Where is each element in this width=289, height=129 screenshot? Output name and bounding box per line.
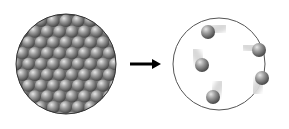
solid-particle — [47, 58, 59, 70]
solid-particle — [122, 36, 134, 48]
solid-particle — [128, 69, 140, 81]
solid-particle — [134, 79, 146, 91]
solid-particle — [84, 36, 96, 48]
solid-particle — [60, 15, 72, 27]
solid-particle — [4, 47, 16, 59]
solid-particle — [78, 47, 90, 59]
solid-particle — [122, 123, 134, 129]
solid-particle — [53, 25, 65, 37]
solid-particle — [84, 123, 96, 129]
solid-particle — [78, 25, 90, 37]
solid-particle — [109, 15, 121, 27]
solid-particle — [60, 123, 72, 129]
solid-particle — [91, 25, 103, 37]
gas-particle — [201, 25, 215, 39]
solid-particle — [91, 4, 103, 16]
solid-particle — [128, 25, 140, 37]
solid-particle — [4, 69, 16, 81]
solid-particle — [97, 123, 109, 129]
solid-particle — [29, 69, 41, 81]
solid-particle — [60, 36, 72, 48]
solid-particle — [72, 36, 84, 48]
solid-particle — [10, 101, 22, 113]
solid-particle — [128, 47, 140, 59]
solid-particle-panel — [4, 4, 147, 129]
solid-particle — [91, 47, 103, 59]
solid-particle — [22, 15, 34, 27]
solid-particle — [109, 123, 121, 129]
solid-particle — [72, 58, 84, 70]
solid-particle — [84, 79, 96, 91]
gas-particle — [255, 71, 269, 85]
solid-particle — [22, 123, 34, 129]
solid-particle — [115, 112, 127, 124]
solid-particle — [41, 4, 53, 16]
solid-particle — [4, 25, 16, 37]
solid-particle — [122, 79, 134, 91]
solid-particle — [35, 58, 47, 70]
solid-particle — [22, 58, 34, 70]
solid-particle — [47, 36, 59, 48]
solid-particle — [134, 36, 146, 48]
gas-particle — [206, 90, 220, 104]
solid-particle — [78, 112, 90, 124]
solid-particle — [103, 112, 115, 124]
solid-particle — [41, 69, 53, 81]
solid-particle — [22, 36, 34, 48]
solid-particle — [66, 25, 78, 37]
solid-particle — [97, 15, 109, 27]
solid-particle — [35, 123, 47, 129]
solid-particle — [35, 36, 47, 48]
solid-particle — [22, 101, 34, 113]
solid-particle — [115, 47, 127, 59]
solid-particle — [53, 69, 65, 81]
solid-particle — [41, 25, 53, 37]
solid-particle — [29, 112, 41, 124]
solid-particle — [60, 58, 72, 70]
solid-particle — [60, 79, 72, 91]
solid-particle — [66, 90, 78, 102]
solid-particle — [22, 79, 34, 91]
solid-particle — [29, 25, 41, 37]
solid-particle — [103, 25, 115, 37]
solid-particle — [91, 90, 103, 102]
solid-particle — [10, 15, 22, 27]
solid-particle — [16, 90, 28, 102]
solid-particle — [29, 47, 41, 59]
solid-particle — [122, 101, 134, 113]
solid-particle — [115, 4, 127, 16]
solid-particle — [134, 101, 146, 113]
solid-particle — [78, 69, 90, 81]
solid-particle — [97, 79, 109, 91]
solid-particle — [78, 4, 90, 16]
phase-change-diagram — [0, 0, 289, 129]
solid-particle — [47, 79, 59, 91]
solid-particle — [103, 90, 115, 102]
solid-particle — [103, 4, 115, 16]
solid-particle — [4, 112, 16, 124]
solid-particle — [128, 90, 140, 102]
solid-particle — [41, 47, 53, 59]
solid-particle — [29, 4, 41, 16]
solid-particle — [91, 69, 103, 81]
solid-particle — [97, 36, 109, 48]
solid-particle — [53, 90, 65, 102]
solid-particle — [128, 4, 140, 16]
solid-particle — [47, 123, 59, 129]
gas-particle — [252, 43, 266, 57]
solid-particle — [66, 47, 78, 59]
solid-particle — [115, 69, 127, 81]
solid-particle — [16, 112, 28, 124]
gas-particle-panel — [173, 18, 269, 110]
solid-particle — [122, 15, 134, 27]
solid-particle — [60, 101, 72, 113]
solid-particle — [16, 4, 28, 16]
solid-particle — [4, 90, 16, 102]
solid-particle — [97, 58, 109, 70]
solid-particle — [115, 25, 127, 37]
solid-particle — [53, 47, 65, 59]
solid-particle — [128, 112, 140, 124]
solid-particle — [29, 90, 41, 102]
solid-particle — [84, 58, 96, 70]
solid-particle — [115, 90, 127, 102]
